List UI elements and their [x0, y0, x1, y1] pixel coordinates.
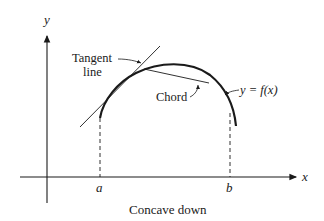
concave-down-diagram: y x Tangent line Chord y = f(x) a b Conc… [0, 0, 324, 221]
chord-label: Chord [156, 90, 188, 104]
tangent-label-line1: Tangent [72, 51, 113, 65]
x-axis-label: x [301, 169, 308, 184]
point-b-label: b [226, 180, 233, 195]
function-label: y = f(x) [238, 83, 278, 97]
y-axis-label: y [42, 12, 50, 27]
chord-leader-arrow [190, 85, 198, 97]
tangent-leader-arrow [118, 59, 141, 63]
tangent-label-line2: line [83, 65, 102, 79]
caption: Concave down [129, 202, 207, 217]
chord-line [144, 69, 209, 83]
point-a-label: a [96, 180, 103, 195]
